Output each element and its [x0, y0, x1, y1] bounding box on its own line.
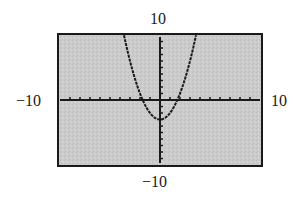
- calculator-screen: [0, 0, 294, 209]
